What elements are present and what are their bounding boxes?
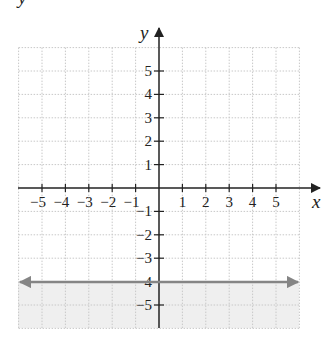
y-tick-label: −1 (136, 203, 152, 219)
y-tick-label: 5 (145, 63, 153, 79)
y-tick-label: −2 (136, 227, 152, 243)
y-tick-label: 1 (145, 157, 153, 173)
y-tick-label: −3 (136, 250, 152, 266)
x-tick-label: −2 (100, 194, 116, 210)
x-tick-label: 5 (272, 194, 280, 210)
corner-label: y (16, 0, 27, 8)
y-tick-label: −5 (136, 297, 152, 313)
x-axis-label: x (311, 191, 321, 212)
y-axis-label: y (138, 22, 149, 43)
x-tick-label: 2 (202, 194, 210, 210)
x-tick-label: 4 (249, 194, 257, 210)
x-tick-label: −5 (30, 194, 46, 210)
y-tick-label: 2 (145, 133, 153, 149)
x-tick-label: −4 (53, 194, 69, 210)
x-tick-label: 1 (179, 194, 187, 210)
x-tick-label: 3 (225, 194, 233, 210)
x-tick-label: −3 (77, 194, 93, 210)
coordinate-graph: y −5−4−3−2−112345 54321−1−2−3−4−5 y x (0, 0, 334, 341)
y-tick-label: 3 (145, 110, 153, 126)
y-tick-label: 4 (145, 86, 153, 102)
